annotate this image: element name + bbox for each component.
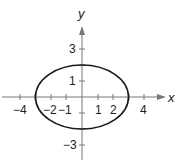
x-tick-label: −1 xyxy=(58,103,72,117)
y-tick-label: 3 xyxy=(69,42,76,56)
x-tick-label: −2 xyxy=(43,103,57,117)
y-axis-label: y xyxy=(77,6,86,21)
x-axis-arrow-icon xyxy=(157,94,166,100)
y-tick-label: −3 xyxy=(63,138,77,152)
x-axis-label: x xyxy=(167,90,175,105)
x-tick-label: −4 xyxy=(13,103,27,117)
ellipse-graph: x y −4 −2 −1 1 2 4 3 1 −3 xyxy=(0,0,179,163)
y-tick-label: 1 xyxy=(69,74,76,88)
x-tick-label: 4 xyxy=(140,103,147,117)
x-tick-label: 2 xyxy=(110,103,117,117)
y-axis-arrow-icon xyxy=(79,26,85,35)
x-tick-label: 1 xyxy=(95,103,102,117)
